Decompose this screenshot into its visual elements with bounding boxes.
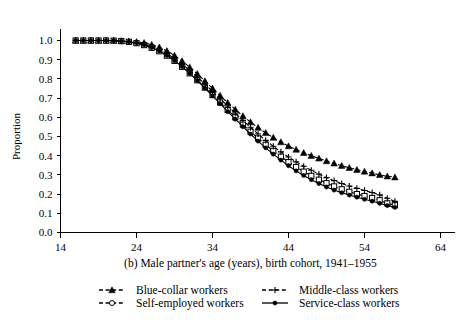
data-marker bbox=[248, 132, 252, 136]
data-marker bbox=[340, 191, 344, 195]
legend-item-blue-collar-workers[interactable]: Blue-collar workers bbox=[99, 284, 228, 296]
legend-item-self-employed-workers[interactable]: Self-employed workers bbox=[99, 297, 244, 310]
data-marker bbox=[285, 143, 292, 149]
data-marker bbox=[378, 201, 382, 205]
y-tick-label: 0.4 bbox=[39, 150, 53, 162]
series-line bbox=[76, 41, 395, 206]
data-marker bbox=[293, 146, 300, 152]
data-marker bbox=[273, 301, 277, 305]
data-marker bbox=[256, 139, 260, 143]
data-marker bbox=[286, 164, 290, 168]
legend-label: Blue-collar workers bbox=[136, 284, 228, 296]
data-marker bbox=[301, 163, 307, 169]
data-marker bbox=[339, 180, 345, 186]
data-marker bbox=[278, 139, 285, 145]
data-marker bbox=[119, 39, 123, 43]
data-marker bbox=[255, 124, 262, 130]
data-marker bbox=[369, 189, 375, 195]
y-tick-label: 0.7 bbox=[39, 92, 53, 104]
legend-label: Self-employed workers bbox=[136, 297, 244, 310]
data-marker bbox=[361, 187, 367, 193]
data-marker bbox=[377, 192, 383, 198]
y-tick-label: 0.0 bbox=[39, 226, 53, 238]
data-marker bbox=[331, 178, 337, 184]
data-marker bbox=[81, 38, 85, 42]
data-marker bbox=[241, 125, 245, 129]
data-marker bbox=[346, 183, 352, 189]
y-tick-label: 0.2 bbox=[39, 188, 53, 200]
data-marker bbox=[218, 102, 222, 106]
data-marker bbox=[180, 65, 184, 69]
data-marker bbox=[226, 109, 230, 113]
chart-caption: (b) Male partner's age (years), birth co… bbox=[124, 257, 377, 270]
series-service-class-workers bbox=[74, 38, 397, 209]
series-self-employed-workers bbox=[73, 38, 397, 208]
data-marker bbox=[264, 146, 268, 150]
data-marker bbox=[188, 71, 192, 75]
data-marker bbox=[203, 86, 207, 90]
x-tick-label: 44 bbox=[283, 241, 295, 253]
data-marker bbox=[370, 199, 374, 203]
data-marker bbox=[392, 174, 399, 180]
legend-marker bbox=[272, 287, 278, 293]
series-blue-collar-workers bbox=[72, 37, 398, 180]
x-tick-label: 34 bbox=[207, 241, 219, 253]
x-tick-label: 14 bbox=[55, 241, 67, 253]
data-marker bbox=[96, 38, 100, 42]
data-marker bbox=[385, 204, 389, 208]
data-marker bbox=[89, 38, 93, 42]
y-tick-label: 0.1 bbox=[39, 207, 53, 219]
data-marker bbox=[347, 193, 351, 197]
y-tick-label: 1.0 bbox=[39, 34, 53, 46]
data-marker bbox=[308, 167, 314, 173]
data-marker bbox=[361, 168, 368, 174]
data-marker bbox=[172, 59, 176, 63]
data-marker bbox=[300, 150, 307, 156]
data-marker bbox=[150, 46, 154, 50]
data-marker bbox=[195, 79, 199, 83]
legend-item-middle-class-workers[interactable]: Middle-class workers bbox=[262, 284, 399, 296]
legend-label: Middle-class workers bbox=[299, 284, 399, 296]
data-marker bbox=[279, 158, 283, 162]
y-axis-title: Proportion bbox=[10, 112, 22, 160]
data-marker bbox=[104, 38, 108, 42]
data-marker bbox=[272, 287, 278, 293]
line-chart: 0.00.10.20.30.40.50.60.70.80.91.01424344… bbox=[0, 0, 467, 326]
data-marker bbox=[309, 178, 313, 182]
legend-marker bbox=[273, 301, 277, 305]
y-tick-label: 0.8 bbox=[39, 73, 53, 85]
data-marker bbox=[262, 130, 269, 136]
data-marker bbox=[393, 205, 397, 209]
data-marker bbox=[331, 160, 338, 166]
data-marker bbox=[233, 117, 237, 121]
data-marker bbox=[210, 94, 214, 98]
data-marker bbox=[127, 40, 131, 44]
x-tick-label: 24 bbox=[131, 241, 143, 253]
data-marker bbox=[74, 38, 78, 42]
data-marker bbox=[362, 197, 366, 201]
y-tick-label: 0.5 bbox=[39, 130, 53, 142]
legend: Blue-collar workersSelf-employed workers… bbox=[99, 284, 400, 310]
data-marker bbox=[110, 301, 115, 306]
figure-container: 0.00.10.20.30.40.50.60.70.80.91.01424344… bbox=[0, 0, 467, 326]
data-marker bbox=[323, 174, 329, 180]
data-marker bbox=[355, 195, 359, 199]
y-tick-label: 0.3 bbox=[39, 169, 53, 181]
x-tick-label: 54 bbox=[359, 241, 371, 253]
data-marker bbox=[317, 181, 321, 185]
data-marker bbox=[302, 173, 306, 177]
data-marker bbox=[323, 158, 330, 164]
data-marker bbox=[294, 169, 298, 173]
series-line bbox=[76, 41, 395, 208]
axes: 0.00.10.20.30.40.50.60.70.80.91.01424344… bbox=[10, 29, 455, 253]
y-tick-label: 0.9 bbox=[39, 54, 53, 66]
legend-item-service-class-workers[interactable]: Service-class workers bbox=[262, 297, 400, 309]
data-marker bbox=[332, 188, 336, 192]
x-tick-label: 64 bbox=[435, 241, 447, 253]
data-marker bbox=[142, 43, 146, 47]
data-marker bbox=[324, 185, 328, 189]
legend-label: Service-class workers bbox=[299, 297, 400, 309]
data-marker bbox=[112, 39, 116, 43]
series-group bbox=[72, 37, 398, 209]
y-tick-label: 0.6 bbox=[39, 111, 53, 123]
